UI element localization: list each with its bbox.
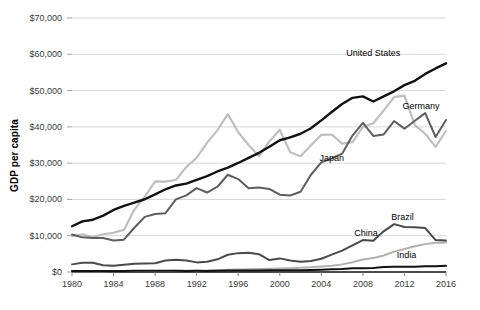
x-axis-tick-label: 2004 xyxy=(311,279,331,289)
series-label-china: China xyxy=(354,228,378,238)
x-axis-tick-label: 2016 xyxy=(436,279,456,289)
series-label-india: India xyxy=(397,250,417,260)
x-axis-tick-label: 1988 xyxy=(145,279,165,289)
series-line-brazil xyxy=(72,224,446,266)
x-axis-tick-label: 1984 xyxy=(104,279,124,289)
x-axis-tick-label: 1996 xyxy=(228,279,248,289)
plot-area xyxy=(0,0,480,310)
series-label-brazil: Brazil xyxy=(391,212,414,222)
series-label-japan: Japan xyxy=(319,153,344,163)
series-line-united-states xyxy=(72,63,446,226)
series-label-germany: Germany xyxy=(403,101,440,111)
x-axis-tick-label: 2012 xyxy=(394,279,414,289)
gdp-per-capita-line-chart: GDP per capita $0$10,000$20,000$30,000$4… xyxy=(0,0,480,310)
series-line-japan xyxy=(72,96,446,238)
x-axis-tick-label: 2008 xyxy=(353,279,373,289)
x-axis-tick-label: 1980 xyxy=(62,279,82,289)
series-label-united-states: United States xyxy=(346,48,400,58)
x-axis-tick-label: 2000 xyxy=(270,279,290,289)
x-axis-tick-label: 1992 xyxy=(187,279,207,289)
